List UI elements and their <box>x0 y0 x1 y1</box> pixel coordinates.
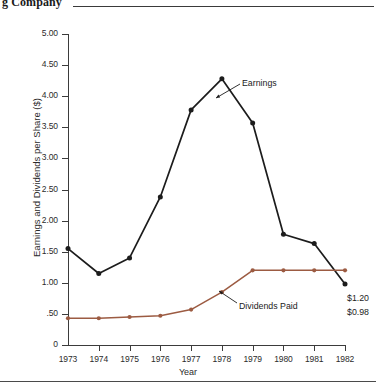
data-point <box>250 120 255 125</box>
data-point <box>66 316 70 320</box>
series-line-dividends-paid <box>68 270 345 318</box>
earnings-end-value-label: $0.98 <box>347 307 369 317</box>
series-plot <box>0 12 376 381</box>
data-point <box>97 316 101 320</box>
data-point <box>66 246 71 251</box>
data-point <box>251 268 255 272</box>
data-point <box>189 107 194 112</box>
data-point <box>281 268 285 272</box>
data-point <box>312 241 317 246</box>
data-point <box>219 76 224 81</box>
data-point <box>189 307 193 311</box>
data-point <box>158 314 162 318</box>
data-point <box>96 271 101 276</box>
chart-container: Earnings and Dividends per Share ($) Yea… <box>0 12 376 381</box>
data-point <box>158 194 163 199</box>
page-title: g Company <box>2 0 62 10</box>
page-header: g Company <box>0 0 376 12</box>
data-point <box>281 232 286 237</box>
series-line-earnings <box>68 79 345 284</box>
data-point <box>343 282 348 287</box>
dividends-leader-line <box>219 291 237 303</box>
dividends-series-label: Dividends Paid <box>239 301 298 311</box>
data-point <box>127 255 132 260</box>
earnings-series-label: Earnings <box>242 78 277 88</box>
data-point <box>127 315 131 319</box>
data-point <box>343 268 347 272</box>
data-point <box>312 268 316 272</box>
dividends-end-value-label: $1.20 <box>347 293 369 303</box>
header-divider <box>73 6 374 7</box>
footer-divider <box>0 381 376 382</box>
